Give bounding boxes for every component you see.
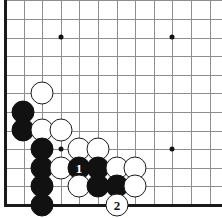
move-number-label: 1: [76, 162, 83, 175]
go-board-diagram: 12: [0, 0, 222, 218]
grid-line-horizontal: [5, 0, 222, 1]
grid-line-horizontal: [5, 19, 222, 20]
hoshi-lower-right-marker: [170, 147, 175, 152]
grid-line-vertical: [172, 0, 173, 205]
hoshi-upper-left-marker: [59, 35, 64, 40]
stone-white-move-2[interactable]: 2: [106, 194, 129, 217]
stone-white-c4[interactable]: [31, 82, 54, 105]
hoshi-lower-left-marker: [59, 147, 64, 152]
grid-line-horizontal: [5, 112, 222, 113]
stone-white-d6[interactable]: [50, 119, 73, 142]
grid-line-vertical: [154, 0, 155, 205]
stone-black-c10[interactable]: [31, 194, 54, 217]
move-number-label: 2: [114, 199, 121, 212]
board-surface: 12: [0, 0, 222, 218]
grid-line-horizontal: [5, 56, 222, 57]
grid-line-horizontal: [5, 75, 222, 76]
grid-line-vertical: [191, 0, 192, 205]
grid-line-horizontal: [5, 38, 222, 39]
board-edge-left: [4, 0, 7, 207]
grid-line-vertical: [210, 0, 211, 205]
hoshi-upper-right-marker: [170, 35, 175, 40]
stone-white-h9[interactable]: [124, 175, 147, 198]
